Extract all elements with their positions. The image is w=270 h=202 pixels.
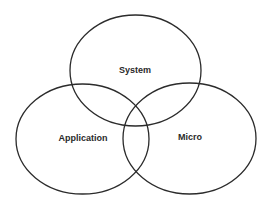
venn-diagram: System Application Micro [0,0,270,202]
system-set-label: System [119,65,151,75]
application-set-label: Application [59,133,108,143]
micro-set-label: Micro [178,132,203,142]
